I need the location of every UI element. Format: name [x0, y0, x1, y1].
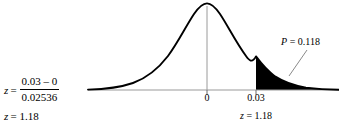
probability-annotation: P = 0.118: [281, 36, 320, 47]
z-score-axis-label: z = 1.18: [228, 110, 284, 121]
z-axis-equals: =: [246, 110, 252, 121]
x-axis-label-mean: 0: [199, 92, 215, 103]
x-axis-label-value: 0.03: [238, 92, 274, 103]
normal-curve-figure: z = 0.03 – 0 0.02536 z = 1.18: [0, 0, 339, 134]
probability-value: 0.118: [298, 36, 320, 47]
leader-line: [289, 50, 307, 76]
z-axis-value: 1.18: [255, 110, 273, 121]
z-axis-variable: z: [240, 110, 244, 121]
probability-variable: P: [281, 36, 287, 47]
normal-curve-plot: [0, 0, 339, 134]
probability-equals: =: [290, 36, 296, 47]
